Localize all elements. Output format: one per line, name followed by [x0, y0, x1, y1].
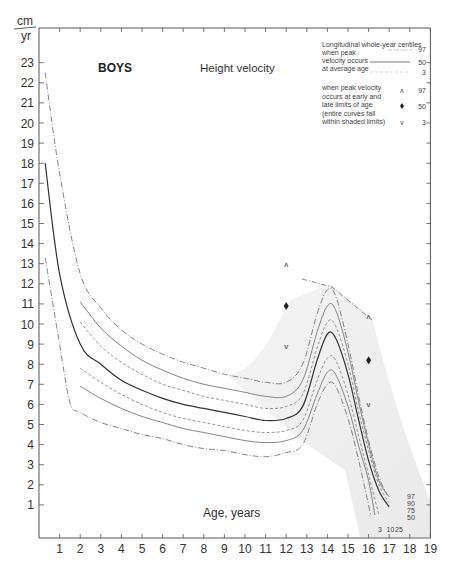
x-tick-label: 6 — [159, 542, 166, 556]
svg-text:50: 50 — [418, 59, 426, 66]
svg-text:50: 50 — [418, 103, 426, 110]
curve-end-label: 25 — [395, 526, 403, 533]
y-unit-cm: cm — [17, 14, 33, 28]
curve-end-label: 75 — [407, 507, 415, 514]
y-tick-label: 19 — [21, 137, 35, 151]
y-tick-label: 11 — [22, 297, 35, 311]
x-tick-label: 8 — [200, 542, 207, 556]
x-tick-label: 15 — [341, 542, 355, 556]
curve-end-label: 97 — [407, 493, 415, 500]
svg-text:occurs at early and: occurs at early and — [322, 93, 381, 101]
y-tick-label: 7 — [27, 378, 34, 392]
y-tick-label: 17 — [21, 177, 35, 191]
x-tick-label: 16 — [362, 542, 376, 556]
x-tick-label: 5 — [139, 542, 146, 556]
svg-text:at average age: at average age — [322, 65, 369, 73]
y-tick-label: 13 — [21, 257, 35, 271]
x-tick-label: 14 — [321, 542, 335, 556]
y-tick-label: 22 — [21, 76, 35, 90]
x-tick-label: 4 — [118, 542, 125, 556]
x-tick-label: 18 — [403, 542, 417, 556]
y-tick-label: 12 — [21, 277, 35, 291]
x-tick-label: 1 — [56, 542, 63, 556]
curve-end-label: 10 — [387, 526, 395, 533]
shaded-limits-region — [228, 284, 430, 537]
y-tick-label: 15 — [21, 217, 35, 231]
chart-subtitle: Height velocity — [200, 62, 275, 74]
svg-text:when peak: when peak — [321, 49, 356, 57]
caret-up-marker-icon: ʌ — [284, 260, 288, 269]
chart-title: BOYS — [98, 61, 132, 75]
curve-end-label: 90 — [407, 500, 415, 507]
y-tick-label: 1 — [27, 498, 34, 512]
x-tick-label: 9 — [221, 542, 228, 556]
y-tick-label: 4 — [27, 438, 34, 452]
svg-text:3: 3 — [422, 119, 426, 126]
legend-caret-icon: v — [400, 119, 404, 126]
y-tick-label: 2 — [27, 478, 34, 492]
legend-caret-icon: ʌ — [400, 87, 404, 94]
y-tick-label: 6 — [27, 398, 34, 412]
x-tick-label: 2 — [77, 542, 84, 556]
y-tick-label: 20 — [21, 117, 35, 131]
x-tick-label: 11 — [259, 542, 272, 556]
y-tick-label: 18 — [21, 157, 35, 171]
y-tick-label: 5 — [27, 418, 34, 432]
caret-down-marker-icon: v — [284, 342, 288, 351]
svg-text:(entire curves fall: (entire curves fall — [322, 110, 376, 118]
y-tick-label: 3 — [27, 458, 34, 472]
x-tick-label: 19 — [424, 542, 438, 556]
x-tick-label: 7 — [180, 542, 187, 556]
x-tick-label: 3 — [97, 542, 104, 556]
y-tick-label: 14 — [21, 237, 35, 251]
svg-text:within shaded limits): within shaded limits) — [321, 118, 385, 126]
svg-text:3: 3 — [422, 69, 426, 76]
caret-up-marker-icon: ʌ — [367, 312, 371, 321]
svg-text:97: 97 — [418, 46, 426, 53]
y-tick-label: 8 — [27, 358, 34, 372]
svg-text:when peak velocity: when peak velocity — [321, 84, 382, 92]
x-axis-label: Age, years — [203, 506, 260, 520]
y-unit-yr: yr — [21, 29, 31, 43]
svg-text:97: 97 — [418, 87, 426, 94]
caret-down-marker-icon: v — [367, 400, 371, 409]
legend-diamond-icon — [400, 103, 404, 109]
x-tick-label: 10 — [238, 542, 252, 556]
y-tick-label: 21 — [21, 96, 35, 110]
y-tick-label: 9 — [27, 338, 34, 352]
x-axis: 12345678910111213141516171819 — [56, 534, 437, 556]
height-velocity-chart: 1234567891011121314151617181920212223 12… — [0, 0, 453, 561]
legend: Longitudinal whole-year centileswhen pea… — [321, 41, 426, 126]
svg-text:Longitudinal whole-year centil: Longitudinal whole-year centiles — [322, 41, 422, 49]
x-tick-label: 17 — [383, 542, 397, 556]
curve-end-label: 3 — [378, 526, 382, 533]
x-tick-label: 13 — [300, 542, 314, 556]
x-tick-label: 12 — [280, 542, 294, 556]
y-axis: 1234567891011121314151617181920212223 — [21, 56, 44, 512]
svg-text:velocity occurs: velocity occurs — [322, 57, 368, 65]
y-tick-label: 16 — [21, 197, 35, 211]
svg-text:late limits of age: late limits of age — [322, 101, 373, 109]
y-tick-label: 10 — [21, 318, 35, 332]
y-tick-label: 23 — [21, 56, 35, 70]
curve-end-label: 50 — [407, 514, 415, 521]
